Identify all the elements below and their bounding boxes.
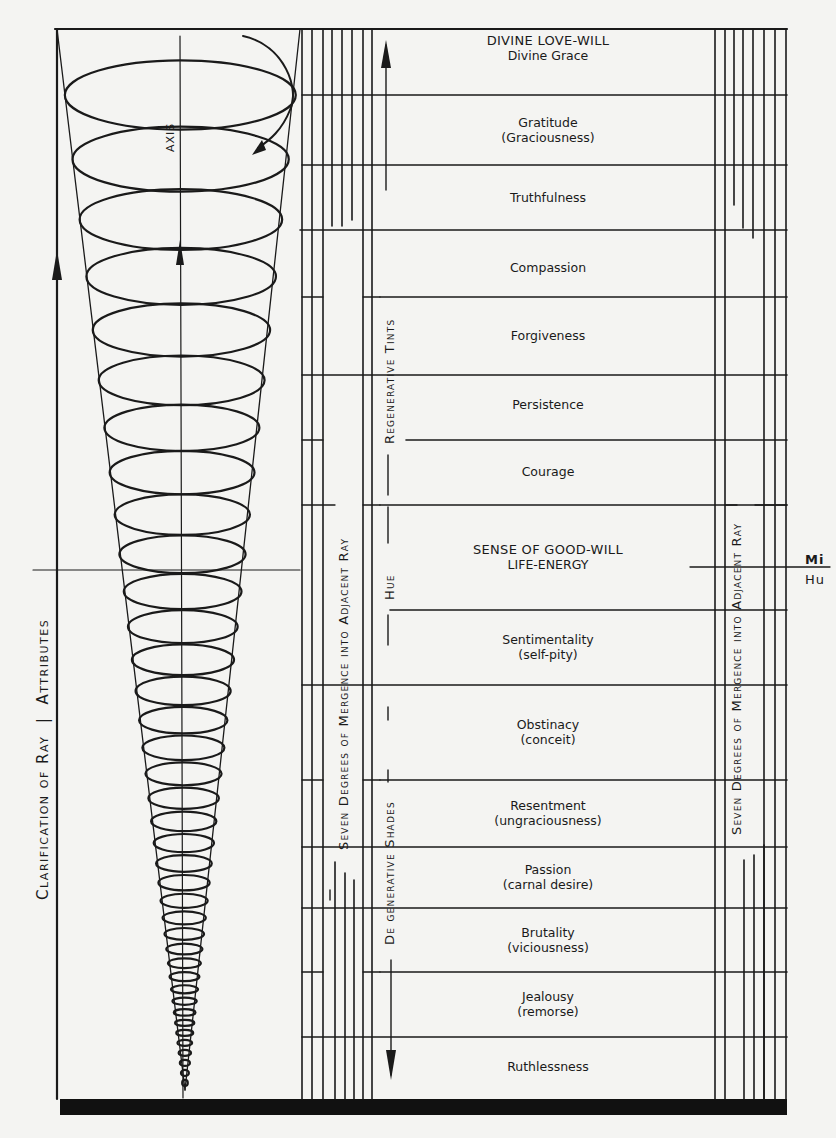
attribute-row: Compassion (378, 260, 718, 275)
attribute-row: Obstinacy(conceit) (378, 717, 718, 747)
spiral-loop (119, 535, 245, 573)
attribute-row: Passion(carnal desire) (378, 862, 718, 892)
attribute-row: Persistence (378, 397, 718, 412)
attribute-primary: Brutality (378, 925, 718, 940)
spiral-loop (136, 677, 231, 706)
base-bar (60, 1099, 787, 1115)
spiral-loop (128, 610, 238, 643)
axis-arrow-up-icon (176, 240, 184, 265)
attribute-secondary: (conceit) (378, 732, 718, 747)
attribute-primary: SENSE OF GOOD-WILL (378, 542, 718, 557)
attribute-primary: Obstinacy (378, 717, 718, 732)
spiral-loop (170, 972, 200, 981)
attribute-row: Forgiveness (378, 328, 718, 343)
left-arrow-up-icon (52, 250, 62, 280)
attribute-primary: Compassion (378, 260, 718, 275)
spiral-loop (132, 644, 234, 675)
left-axis-label-part1: Clarification of Ray (34, 736, 52, 900)
edge-text-top: Mi (805, 552, 824, 567)
spiral-loop (161, 894, 208, 908)
attribute-secondary: (viciousness) (378, 940, 718, 955)
attribute-primary: Truthfulness (378, 190, 718, 205)
hue-label: Hue (382, 574, 397, 600)
spiral-axis-label: AXIS (164, 123, 177, 152)
attribute-primary: Ruthlessness (378, 1059, 718, 1074)
attribute-row: Ruthlessness (378, 1059, 718, 1074)
attribute-secondary: LIFE-ENERGY (378, 557, 718, 572)
spiral-loop (175, 1020, 194, 1026)
left-axis-label: Clarification of Ray | Attributes (34, 619, 52, 900)
spiral-loop (181, 1070, 189, 1076)
spiral-loop (163, 911, 206, 924)
spiral-loop (166, 944, 202, 955)
attribute-row: Courage (378, 464, 718, 479)
attribute-row: Resentment(ungraciousness) (378, 798, 718, 828)
attribute-primary: DIVINE LOVE-WILL (378, 33, 718, 48)
spiral-loop (148, 788, 219, 809)
attribute-row: Truthfulness (378, 190, 718, 205)
spiral-loop (104, 405, 259, 452)
spiral-loop (154, 834, 214, 852)
attribute-primary: Forgiveness (378, 328, 718, 343)
spiral-loop (168, 958, 201, 968)
attribute-primary: Gratitude (378, 115, 718, 130)
spiral-loop (158, 875, 209, 890)
attribute-row: Sentimentality(self-pity) (378, 632, 718, 662)
spiral-loop (172, 998, 196, 1005)
attribute-row: SENSE OF GOOD-WILLLIFE-ENERGY (378, 542, 718, 572)
attribute-row: Jealousy(remorse) (378, 989, 718, 1019)
spiral-loop (124, 574, 242, 609)
spiral-loop (182, 1080, 188, 1086)
attribute-row: Gratitude(Graciousness) (378, 115, 718, 145)
spiral-loop (164, 928, 204, 940)
merge-label-right: Seven Degrees of Mergence into Adjacent … (729, 523, 744, 835)
spiral-loop (115, 494, 250, 535)
spiral-loop (139, 707, 227, 734)
attribute-primary: Jealousy (378, 989, 718, 1004)
spiral-loop (110, 451, 255, 494)
spiral-arrow-icon (252, 140, 266, 155)
attribute-primary: Passion (378, 862, 718, 877)
spiral-loop (174, 1009, 196, 1016)
spiral-loop (142, 736, 224, 761)
attribute-primary: Courage (378, 464, 718, 479)
left-axis-label-part2: Attributes (34, 619, 52, 705)
merge-label-left: Seven Degrees of Mergence into Adjacent … (336, 538, 351, 850)
spiral-loop (151, 812, 216, 832)
spiral-loop (145, 762, 221, 785)
edge-text-bottom: Hu (805, 572, 825, 587)
attribute-secondary: (self-pity) (378, 647, 718, 662)
attribute-secondary: Divine Grace (378, 48, 718, 63)
attribute-row: DIVINE LOVE-WILLDivine Grace (378, 33, 718, 63)
right-column-lines (715, 29, 786, 1099)
spiral-loop (171, 985, 198, 993)
left-axis-label-divider: | (34, 717, 52, 724)
attribute-secondary: (Graciousness) (378, 130, 718, 145)
attribute-secondary: (ungraciousness) (378, 813, 718, 828)
attribute-secondary: (remorse) (378, 1004, 718, 1019)
attribute-primary: Resentment (378, 798, 718, 813)
spiral-loop (99, 355, 265, 405)
spiral-loop (156, 855, 212, 872)
attribute-primary: Sentimentality (378, 632, 718, 647)
attribute-primary: Persistence (378, 397, 718, 412)
attribute-secondary: (carnal desire) (378, 877, 718, 892)
attribute-row: Brutality(viciousness) (378, 925, 718, 955)
